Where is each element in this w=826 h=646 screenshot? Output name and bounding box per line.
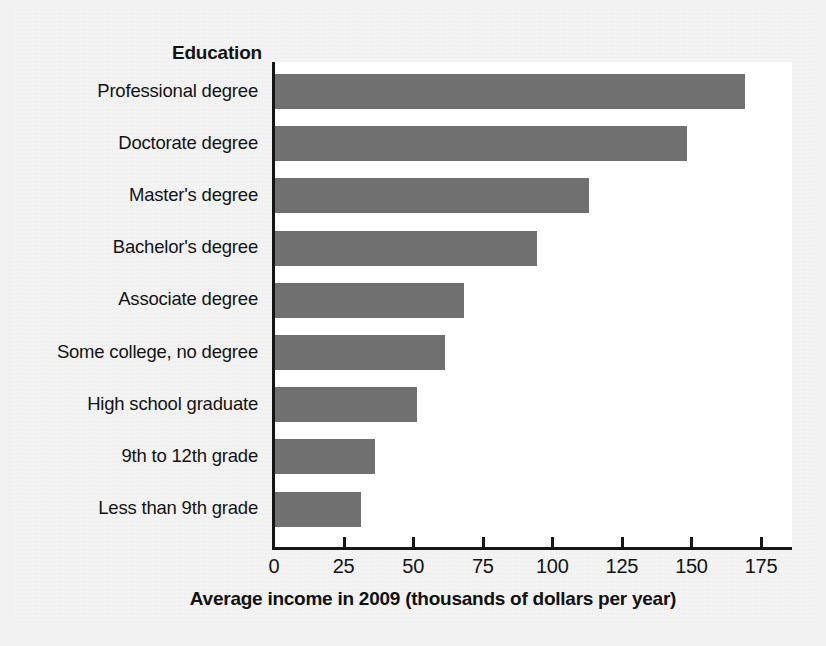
category-label: Less than 9th grade (98, 497, 258, 519)
x-tick-label: 0 (244, 555, 304, 578)
x-axis-title: Average income in 2009 (thousands of dol… (0, 588, 826, 610)
x-tick-label: 150 (661, 555, 721, 578)
bars-layer (275, 62, 792, 547)
bar (275, 283, 464, 318)
category-label: 9th to 12th grade (122, 445, 259, 467)
bar (275, 335, 445, 370)
bar (275, 74, 745, 109)
bar (275, 387, 417, 422)
x-axis-line (272, 547, 792, 550)
x-tick-label: 100 (522, 555, 582, 578)
category-label: Associate degree (118, 288, 258, 310)
x-tick-label: 25 (314, 555, 374, 578)
x-tick-label: 125 (592, 555, 652, 578)
figure-page: Education Professional degreeDoctorate d… (0, 0, 826, 646)
bar (275, 178, 589, 213)
category-label: High school graduate (87, 393, 258, 415)
category-label: Some college, no degree (57, 341, 258, 363)
x-tick-label: 50 (383, 555, 443, 578)
category-label: Doctorate degree (118, 132, 258, 154)
category-label: Master's degree (129, 184, 258, 206)
bar (275, 439, 375, 474)
category-label-column: Professional degreeDoctorate degreeMaste… (10, 62, 266, 547)
category-label: Bachelor's degree (113, 236, 258, 258)
category-axis-title: Education (150, 42, 262, 64)
bar (275, 231, 537, 266)
bar (275, 492, 361, 527)
x-tick-label: 175 (731, 555, 791, 578)
bar-chart-figure: Education Professional degreeDoctorate d… (0, 0, 826, 646)
bar (275, 126, 687, 161)
category-label: Professional degree (97, 80, 258, 102)
x-tick-label: 75 (453, 555, 513, 578)
